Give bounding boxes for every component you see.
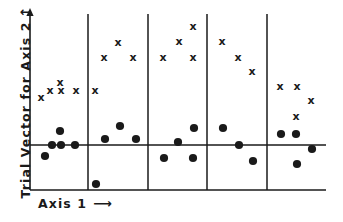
dot-marker — [56, 127, 64, 135]
dot-marker — [190, 124, 198, 132]
y-axis-label-text: Trial Vector for Axis 2 — [18, 22, 33, 199]
dot-marker — [41, 152, 49, 160]
x-marker: x — [189, 51, 196, 64]
plot-canvas: x x x x x x x x x x x x x — [0, 0, 343, 222]
dot-marker — [48, 141, 56, 149]
x-marker: x — [293, 80, 300, 93]
x-marker: x — [159, 51, 166, 64]
dot-marker — [235, 141, 243, 149]
dot-marker — [160, 154, 168, 162]
x-axis-label-text: Axis 1 — [38, 196, 87, 211]
x-marker: x — [100, 51, 107, 64]
dot-marker — [308, 145, 316, 153]
dot-marker — [92, 180, 100, 188]
panel-3-markers: x x x x — [159, 20, 198, 162]
dot-marker — [293, 160, 301, 168]
x-marker: x — [218, 35, 225, 48]
x-marker: x — [129, 51, 136, 64]
panel-2-markers: x x x x — [91, 36, 140, 188]
dot-marker — [71, 141, 79, 149]
panel-5-markers: x x x x — [276, 80, 316, 168]
x-marker: x — [175, 35, 182, 48]
x-marker: x — [72, 84, 79, 97]
x-marker: x — [37, 91, 44, 104]
x-marker: x — [46, 84, 53, 97]
x-marker: x — [307, 94, 314, 107]
dot-marker — [189, 154, 197, 162]
dot-marker — [132, 135, 140, 143]
x-marker: x — [114, 36, 121, 49]
x-marker: x — [57, 84, 64, 97]
x-axis-label-arrow-icon: ⟶ — [93, 196, 113, 211]
dot-marker — [174, 138, 182, 146]
dot-marker — [101, 135, 109, 143]
x-marker: x — [248, 65, 255, 78]
dot-marker — [116, 122, 124, 130]
x-marker: x — [189, 20, 196, 33]
dot-marker — [292, 130, 300, 138]
x-axis-label: Axis 1⟶ — [38, 196, 113, 211]
x-marker: x — [234, 51, 241, 64]
y-axis-label: Trial Vector for Axis 2↑ — [18, 9, 33, 199]
y-axis-label-arrow-icon: ↑ — [18, 6, 33, 18]
x-marker: x — [91, 84, 98, 97]
x-marker: x — [276, 80, 283, 93]
dot-marker — [249, 157, 257, 165]
dot-marker — [277, 130, 285, 138]
x-marker: x — [292, 110, 299, 123]
dot-marker — [219, 124, 227, 132]
dot-marker — [57, 141, 65, 149]
panel-1-markers: x x x x x — [37, 76, 79, 160]
scatter-figure: x x x x x x x x x x x x x — [0, 0, 343, 222]
